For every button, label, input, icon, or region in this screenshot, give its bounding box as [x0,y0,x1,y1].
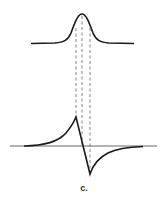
absorption-peak-curve [31,14,134,44]
derivative-signal-curve [24,117,143,174]
figure-label: c. [76,183,92,193]
derivative-spectrum-diagram [0,0,163,208]
